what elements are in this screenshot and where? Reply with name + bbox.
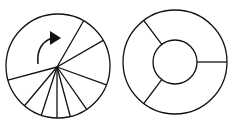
divider-line bbox=[57, 67, 87, 109]
rotation-arrow-arc bbox=[38, 38, 52, 64]
divider-line bbox=[57, 67, 70, 117]
figure bbox=[0, 0, 233, 124]
sector-divider bbox=[144, 20, 162, 44]
divider-line bbox=[57, 21, 84, 67]
divider-line bbox=[24, 67, 57, 106]
divider-line bbox=[57, 67, 106, 85]
divider-line bbox=[41, 67, 57, 115]
ring-diagram bbox=[123, 10, 227, 114]
inner-circle bbox=[153, 40, 197, 84]
divider-line bbox=[8, 67, 57, 80]
arrowhead-icon bbox=[50, 31, 61, 45]
divider-line bbox=[57, 40, 103, 67]
sector-divider bbox=[144, 80, 162, 104]
diagram-canvas bbox=[0, 0, 233, 124]
spinner-diagram bbox=[6, 14, 110, 118]
